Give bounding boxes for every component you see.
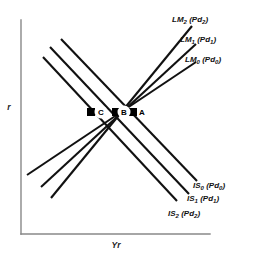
curve-label-lm2-base: LM	[172, 15, 184, 24]
x-axis-label: Yr	[112, 240, 122, 250]
is-lm-diagram: r Yr LM2 (Pd2) LM1 (Pd1) LM0 (Pd0)	[0, 0, 256, 256]
point-label-b: B	[121, 108, 127, 117]
curve-label-lm1: LM1 (Pd1)	[180, 35, 216, 45]
curve-label-lm2: LM2 (Pd2)	[172, 15, 208, 25]
curve-label-lm0: LM0 (Pd0)	[185, 55, 221, 65]
curve-label-lm0-base: LM	[185, 55, 197, 64]
point-label-a: A	[139, 108, 145, 117]
point-label-group: C B A	[95, 106, 146, 119]
curve-label-is0: IS0 (Pd0)	[193, 181, 225, 191]
point-marker-c	[87, 108, 95, 116]
diagram-canvas: r Yr LM2 (Pd2) LM1 (Pd1) LM0 (Pd0)	[0, 0, 256, 256]
curve-is2	[43, 57, 177, 201]
curve-label-is1: IS1 (Pd1)	[187, 194, 219, 204]
curve-label-is2: IS2 (Pd2)	[168, 209, 200, 219]
curve-label-lm1-base: LM	[180, 35, 192, 44]
axis-group	[21, 20, 210, 234]
y-axis-label: r	[7, 102, 11, 112]
point-label-c: C	[98, 108, 104, 117]
curve-lm0	[27, 62, 196, 175]
